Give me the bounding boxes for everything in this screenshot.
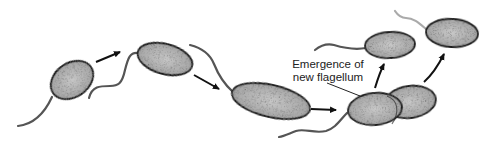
flagellum-1: [18, 97, 52, 126]
annotation-leader-line: [327, 83, 360, 96]
cell-body-2: [134, 37, 196, 80]
arrow-4: [375, 64, 384, 88]
cell-body-5: [364, 31, 415, 60]
new-flagellum: [395, 11, 426, 29]
annotation-line-2: new flagellum: [283, 71, 373, 84]
annotation-label: Emergence of new flagellum: [283, 58, 373, 84]
arrow-3: [311, 109, 336, 110]
cell-2: [89, 37, 196, 98]
annotation-line-1: Emergence of: [283, 58, 373, 71]
daughter-body-left: [347, 91, 404, 128]
diagram-canvas: Emergence of new flagellum: [0, 0, 498, 145]
arrow-1: [96, 52, 120, 62]
cell-5: [315, 31, 416, 60]
cell-body-6: [425, 18, 478, 49]
cell-1: [18, 53, 101, 126]
arrow-2: [194, 75, 219, 89]
arrow-5: [424, 54, 444, 82]
flagellum-5: [315, 44, 366, 50]
flagellum-2: [89, 53, 138, 98]
fission-diagram: [0, 0, 498, 145]
